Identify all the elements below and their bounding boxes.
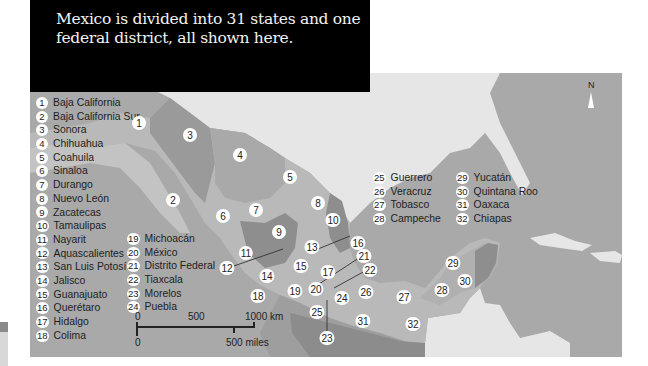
legend-number-badge: 29	[456, 172, 469, 184]
legend-item: 23Morelos	[127, 287, 215, 301]
legend-item: 26Veracruz	[373, 185, 441, 199]
legend-number-badge: 13	[36, 261, 49, 273]
legend-item: 6Sinaloa	[36, 164, 140, 178]
legend-item: 27Tobasco	[373, 198, 441, 212]
scale-line	[136, 326, 254, 328]
legend-item: 13San Luis Potosí	[36, 260, 140, 274]
state-marker: 10	[325, 213, 340, 227]
legend-state-name: Michoacán	[145, 232, 195, 246]
legend-number-badge: 1	[36, 97, 48, 109]
legend-number-badge: 12	[36, 247, 49, 259]
legend-column-3: 25Guerrero26Veracruz27Tobasco28Campeche	[373, 171, 441, 226]
state-marker: 8	[311, 196, 325, 210]
legend-number-badge: 10	[36, 220, 49, 232]
north-arrow-icon	[587, 92, 595, 108]
legend-number-badge: 16	[36, 302, 49, 314]
legend-state-name: Baja California Sur	[53, 110, 140, 124]
state-marker: 27	[396, 290, 411, 304]
legend-number-badge: 19	[127, 233, 140, 245]
legend-state-name: Tamaulipas	[54, 219, 107, 233]
legend-number-badge: 7	[36, 179, 48, 191]
legend-item: 15Guanajuato	[36, 288, 140, 302]
legend-column-1: 1Baja California2Baja California Sur3Son…	[36, 96, 140, 342]
legend-item: 16Querétaro	[36, 301, 140, 315]
state-marker: 21	[356, 249, 371, 263]
legend-state-name: Tobasco	[391, 198, 430, 212]
scale-km-500: 500	[188, 311, 205, 322]
state-marker: 32	[405, 317, 420, 331]
legend-item: 25Guerrero	[373, 171, 441, 185]
scale-mi-500: 500 miles	[226, 337, 269, 348]
page-edge-stub-dark	[0, 322, 8, 332]
state-marker: 14	[259, 269, 274, 283]
legend-number-badge: 4	[36, 138, 48, 150]
legend-state-name: México	[145, 246, 178, 260]
legend-number-badge: 22	[127, 274, 140, 286]
legend-state-name: Guerrero	[391, 171, 433, 185]
state-marker: 22	[362, 263, 377, 277]
state-marker: 20	[308, 282, 323, 296]
legend-number-badge: 5	[36, 152, 48, 164]
legend-item: 29Yucatán	[456, 171, 538, 185]
legend-state-name: Campeche	[391, 212, 441, 226]
legend-number-badge: 32	[456, 213, 469, 225]
legend-state-name: Aquascalientes	[54, 247, 124, 261]
legend-number-badge: 17	[36, 316, 49, 328]
legend-item: 9Zacatecas	[36, 206, 140, 220]
legend-item: 12Aquascalientes	[36, 247, 140, 261]
legend-state-name: Yucatán	[474, 171, 512, 185]
state-marker: 13	[304, 240, 319, 254]
legend-number-badge: 14	[36, 275, 49, 287]
state-marker: 17	[320, 265, 335, 279]
legend-item: 22Tiaxcala	[127, 273, 215, 287]
legend-state-name: Baja California	[53, 96, 121, 110]
legend-item: 30Quintana Roo	[456, 185, 538, 199]
legend-item: 14Jalisco	[36, 274, 140, 288]
north-label: N	[588, 80, 595, 90]
legend-state-name: Chihuahua	[53, 137, 103, 151]
legend-item: 10Tamaulipas	[36, 219, 140, 233]
state-marker: 23	[319, 331, 334, 345]
legend-number-badge: 28	[373, 213, 386, 225]
legend-number-badge: 30	[456, 186, 469, 198]
state-marker: 19	[287, 284, 302, 298]
caption-box: Mexico is divided into 31 states and one…	[30, 0, 370, 92]
legend-state-name: Veracruz	[391, 185, 432, 199]
legend-state-name: Morelos	[145, 287, 182, 301]
state-marker: 30	[457, 274, 472, 288]
legend-column-2: 19Michoacán20México21Distrito Federal22T…	[127, 232, 215, 314]
legend-state-name: Jalisco	[54, 274, 86, 288]
legend-number-badge: 9	[36, 206, 48, 218]
scale-km-0: 0	[135, 311, 141, 322]
scale-tick-1000km	[253, 322, 255, 328]
state-marker: 6	[216, 209, 230, 223]
legend-state-name: Coahuila	[53, 151, 94, 165]
legend-number-badge: 31	[456, 199, 469, 211]
legend-state-name: Sinaloa	[53, 164, 88, 178]
legend-state-name: Distrito Federal	[145, 259, 215, 273]
state-marker: 18	[250, 289, 265, 303]
legend-item: 18Colima	[36, 329, 140, 343]
legend-number-badge: 6	[36, 165, 48, 177]
legend-item: 17Hidalgo	[36, 315, 140, 329]
legend-item: 8Nuevo León	[36, 192, 140, 206]
legend-state-name: Querétaro	[54, 301, 101, 315]
state-marker: 16	[350, 236, 365, 250]
legend-state-name: Zacatecas	[53, 206, 101, 220]
legend-item: 4Chihuahua	[36, 137, 140, 151]
scale-km-1000: 1000 km	[245, 311, 283, 322]
legend-item: 3Sonora	[36, 123, 140, 137]
legend-item: 2Baja California Sur	[36, 110, 140, 124]
legend-number-badge: 3	[36, 124, 48, 136]
legend-number-badge: 20	[127, 247, 140, 259]
state-marker: 25	[309, 305, 324, 319]
legend-item: 7Durango	[36, 178, 140, 192]
legend-item: 5Coahuila	[36, 151, 140, 165]
state-marker: 7	[249, 203, 263, 217]
legend-state-name: Tiaxcala	[145, 273, 183, 287]
state-marker: 12	[219, 261, 234, 275]
legend-number-badge: 27	[373, 199, 386, 211]
legend-item: 28Campeche	[373, 212, 441, 226]
state-marker: 26	[358, 285, 373, 299]
scale-tick-0	[136, 322, 138, 336]
